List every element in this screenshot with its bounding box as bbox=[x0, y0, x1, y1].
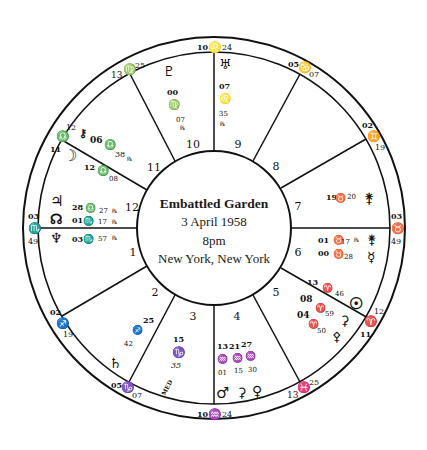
neptune-deg: 03 bbox=[72, 234, 84, 244]
vesta-min: 20 bbox=[347, 193, 356, 201]
moon-sign-icon: ♎ bbox=[97, 164, 109, 177]
neptune-retro: ℞ bbox=[112, 234, 117, 241]
juno-deg: 01 bbox=[318, 235, 329, 245]
aries-icon: ♈ bbox=[364, 315, 378, 328]
cusp-1-deg: 03 bbox=[28, 211, 40, 221]
natal-chart-wheel: 1 2 3 4 5 6 7 8 9 10 11 12 Embattled Gar… bbox=[0, 0, 427, 450]
north-node-retro: ℞ bbox=[112, 218, 117, 225]
chart-title: Embattled Garden bbox=[160, 196, 269, 211]
mercury-min: 28 bbox=[344, 253, 353, 261]
house-number-7: 7 bbox=[295, 200, 302, 213]
pluto-deg: 00 bbox=[167, 87, 179, 97]
north-node-deg: 01 bbox=[72, 215, 83, 225]
mars-deg: 13 bbox=[217, 341, 229, 351]
juno-icon: ⚵ bbox=[367, 232, 377, 247]
chart-time: 8pm bbox=[202, 233, 225, 248]
jupiter-min: 27 bbox=[99, 207, 108, 215]
pluto-min: 07 bbox=[176, 116, 185, 124]
lilith-min: 42 bbox=[124, 340, 133, 348]
house-number-12: 12 bbox=[125, 201, 139, 214]
sun-min: 46 bbox=[335, 290, 344, 298]
uranus-deg: 07 bbox=[219, 81, 230, 91]
cusp-7-deg: 03 bbox=[391, 211, 403, 221]
venus-icon: ♀ bbox=[252, 383, 262, 399]
med-deg: 15 bbox=[173, 334, 184, 344]
north-node-icon: ☊ bbox=[50, 211, 62, 227]
house-number-9: 9 bbox=[235, 138, 242, 151]
ceres-min: 15 bbox=[234, 367, 243, 375]
mars-min: 01 bbox=[218, 369, 227, 377]
cusp-8-deg: 02 bbox=[362, 120, 373, 130]
cusp-2-deg: 02 bbox=[50, 307, 61, 317]
asteroid-1-deg: 08 bbox=[300, 294, 313, 304]
cusp-7-min: 49 bbox=[391, 237, 401, 246]
cusp-line-5 bbox=[253, 295, 300, 382]
cusp-4-min: 24 bbox=[222, 410, 232, 419]
chiron-deg: 06 bbox=[90, 135, 103, 145]
ceres-sign-icon: ♒ bbox=[232, 352, 243, 363]
med-label: MED bbox=[160, 379, 174, 397]
cusp-line-2 bbox=[62, 266, 147, 316]
cusp-1-min: 49 bbox=[28, 237, 38, 246]
libra-icon: ♎ bbox=[56, 130, 70, 143]
house-number-8: 8 bbox=[273, 160, 280, 173]
cusp-3-min: 07 bbox=[132, 391, 142, 400]
aquarius-icon: ♒ bbox=[208, 408, 222, 421]
chiron-retro: ℞ bbox=[127, 155, 132, 162]
house-number-3: 3 bbox=[190, 310, 197, 323]
uranus-icon: ♅ bbox=[219, 56, 232, 72]
house-number-6: 6 bbox=[295, 246, 302, 259]
mercury-icon: ☿ bbox=[367, 249, 376, 265]
neptune-icon: ♆ bbox=[50, 230, 63, 246]
cusp-9-min: 07 bbox=[309, 70, 319, 79]
venus-deg: 27 bbox=[241, 339, 252, 349]
sagittarius-icon: ♐ bbox=[56, 317, 70, 330]
jupiter-icon: ♃ bbox=[50, 192, 63, 210]
chart-info: Embattled Garden 3 April 1958 8pm New Yo… bbox=[158, 196, 270, 266]
cusp-4-deg: 10 bbox=[197, 409, 209, 419]
vesta-sign-icon: ♉ bbox=[335, 192, 346, 203]
cusp-line-8 bbox=[281, 139, 366, 188]
house-number-4: 4 bbox=[234, 310, 241, 323]
north-node-sign-icon: ♏ bbox=[83, 215, 94, 226]
sun-deg: 13 bbox=[307, 277, 319, 287]
gemini-icon: ♊ bbox=[367, 130, 381, 143]
leo-icon: ♌ bbox=[208, 41, 222, 54]
chiron-icon: ⚷ bbox=[79, 127, 87, 140]
sun-icon: ☉ bbox=[349, 294, 363, 313]
venus-min: 30 bbox=[248, 366, 257, 374]
jupiter-retro: ℞ bbox=[112, 207, 117, 214]
moon-min: 08 bbox=[109, 175, 118, 183]
taurus-icon: ♉ bbox=[391, 222, 405, 235]
uranus-sign-icon: ♌ bbox=[219, 92, 231, 105]
mercury-sign-icon: ♉ bbox=[333, 248, 344, 259]
house-number-2: 2 bbox=[152, 286, 159, 299]
mars-sign-icon: ♒ bbox=[217, 353, 228, 364]
scorpio-icon: ♏ bbox=[28, 222, 42, 235]
cusp-12-deg: 11 bbox=[50, 144, 61, 154]
chart-date: 3 April 1958 bbox=[181, 214, 247, 229]
moon-icon: ☽ bbox=[63, 146, 77, 165]
venus-sign-icon: ♒ bbox=[245, 350, 256, 361]
lilith-deg: 25 bbox=[143, 315, 154, 325]
north-node-min: 17 bbox=[98, 218, 107, 226]
cusp-11-min: 25 bbox=[135, 61, 145, 70]
chiron-min: 38 bbox=[115, 150, 125, 159]
house-number-5: 5 bbox=[273, 286, 280, 299]
sun-sign-icon: ♈ bbox=[322, 282, 333, 293]
pluto-sign-icon: ♍ bbox=[168, 98, 180, 111]
saturn-icon: ♄ bbox=[109, 355, 122, 371]
uranus-min: 35 bbox=[219, 110, 228, 118]
cusp-6-deg: 11 bbox=[360, 329, 371, 339]
moon-deg: 12 bbox=[84, 162, 95, 172]
med-sign-icon: ♑ bbox=[172, 346, 186, 359]
pluto-retro: ℞ bbox=[180, 124, 185, 131]
ceres-icon: ⚳ bbox=[237, 385, 247, 400]
house-number-11: 11 bbox=[147, 161, 161, 174]
vesta-icon: ⚵ bbox=[364, 190, 374, 206]
ceres-deg: 21 bbox=[229, 341, 240, 351]
cusp-10-min: 24 bbox=[222, 43, 232, 52]
mercury-deg: 00 bbox=[318, 248, 330, 258]
jupiter-sign-icon: ♎ bbox=[85, 202, 96, 213]
cusp-8-min: 19 bbox=[375, 143, 385, 152]
